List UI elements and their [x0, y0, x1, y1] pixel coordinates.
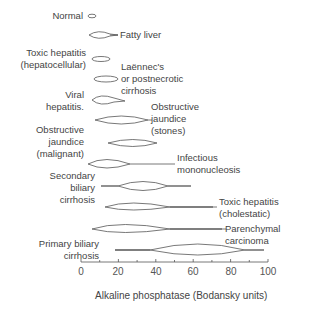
label-line: Obstructive [36, 124, 84, 136]
tick-label-80: 80 [225, 266, 236, 277]
label-primary-biliary: Primary biliary cirrhosis [39, 238, 99, 262]
label-line: Laënnec's [121, 61, 183, 73]
label-line: (hepatocellular) [21, 59, 86, 71]
label-line: (cholestatic) [219, 208, 279, 220]
label-line: or postnecrotic [121, 73, 183, 85]
label-line: hepatitis. [46, 101, 84, 113]
range-normal [88, 14, 96, 18]
label-viral-hepatitis: Viral hepatitis. [46, 89, 84, 113]
label-line: cirrhosis [121, 85, 183, 97]
range-viral-hepatitis [92, 96, 125, 104]
label-obstructive-malignant: Obstructive jaundice (malignant) [36, 124, 84, 160]
label-line: Toxic hepatitis [219, 196, 279, 208]
tick-label-0: 0 [78, 266, 84, 277]
label-line: (malignant) [36, 148, 84, 160]
label-fatty-liver: Fatty liver [120, 29, 161, 41]
label-line: carcinoma [225, 235, 280, 247]
label-infectious-mono: Infectious mononucleosis [177, 152, 240, 176]
label-line: Obstructive [151, 101, 199, 113]
tick-label-100: 100 [260, 266, 277, 277]
tick-label-60: 60 [187, 266, 198, 277]
label-line: Toxic hepatitis [21, 47, 86, 59]
range-obstructive-stones [95, 116, 148, 124]
label-line: cirrhosis [39, 250, 99, 262]
x-axis-label: Alkaline phosphatase (Bodansky units) [95, 290, 267, 301]
label-line: Primary biliary [39, 238, 99, 250]
label-line: jaundice [151, 113, 199, 125]
label-line: Parenchymal [225, 223, 280, 235]
x-axis [81, 259, 268, 262]
tick-label-20: 20 [112, 266, 123, 277]
label-obstructive-stones: Obstructive jaundice (stones) [151, 101, 199, 137]
range-obstructive-malignant [108, 140, 157, 147]
label-line: Viral [46, 89, 84, 101]
label-parenchymal-carcinoma: Parenchymal carcinoma [225, 223, 280, 247]
label-line: Infectious [177, 152, 240, 164]
range-toxic-cholestatic [105, 203, 170, 210]
label-line: biliary [50, 182, 95, 194]
range-laennec [94, 76, 118, 82]
range-toxic-hepatocellular [92, 57, 110, 62]
label-line: (stones) [151, 125, 199, 137]
label-line: mononucleosis [177, 164, 240, 176]
label-normal: Normal [52, 10, 83, 22]
label-line: cirrhosis [50, 194, 95, 206]
label-line: Secondary [50, 170, 95, 182]
range-parenchymal-carcinoma [92, 225, 170, 233]
label-line: jaundice [36, 136, 84, 148]
label-secondary-biliary: Secondary biliary cirrhosis [50, 170, 95, 206]
label-toxic-hepatocellular: Toxic hepatitis (hepatocellular) [21, 47, 86, 71]
range-infectious-mononucleosis [88, 160, 130, 169]
label-laennec: Laënnec's or postnecrotic cirrhosis [121, 61, 183, 97]
tick-label-40: 40 [150, 266, 161, 277]
label-toxic-cholestatic: Toxic hepatitis (cholestatic) [219, 196, 279, 220]
